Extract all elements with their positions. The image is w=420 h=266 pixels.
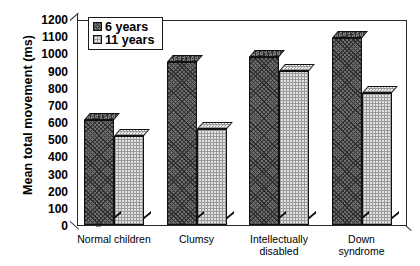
- bar: [167, 62, 197, 225]
- dark-hatched-swatch-icon: [93, 22, 102, 31]
- bar: [84, 120, 114, 225]
- bar-top-face: [114, 129, 150, 136]
- bar-front-face: [84, 120, 114, 225]
- y-axis-tick-label: 800: [48, 82, 68, 96]
- y-axis-tick-label: 300: [48, 168, 68, 182]
- y-axis-tick-label: 400: [48, 150, 68, 164]
- x-axis-category-label: Intellectually disabled: [250, 234, 308, 257]
- y-axis-tick-label: 500: [48, 133, 68, 147]
- bar-top-face: [197, 122, 233, 129]
- bar-front-face: [197, 129, 227, 225]
- bar-top-face: [362, 86, 398, 93]
- bar: [332, 38, 362, 225]
- bar-side-face: [227, 211, 234, 219]
- bar-top-face: [167, 55, 203, 62]
- x-axis-category-label: Normal children: [77, 234, 151, 246]
- x-axis-category-label: Clumsy: [179, 234, 214, 246]
- y-axis-tick-label: 1000: [41, 47, 68, 61]
- bar: [197, 129, 227, 225]
- bar-side-face: [144, 211, 151, 219]
- legend: 6 years 11 years: [88, 17, 163, 50]
- bar: [249, 57, 279, 225]
- plot-area: [77, 20, 407, 226]
- bar-front-face: [332, 38, 362, 225]
- bar-side-face: [309, 211, 316, 219]
- bar-front-face: [249, 57, 279, 225]
- bar-top-face: [332, 31, 368, 38]
- bar: [279, 71, 309, 226]
- legend-item-6-years: 6 years: [93, 20, 154, 33]
- x-axis-category-label: Down syndrome: [334, 234, 390, 257]
- bar-group-container: [78, 21, 406, 225]
- bar-top-face: [279, 64, 315, 71]
- y-axis-tick-label: 700: [48, 99, 68, 113]
- legend-item-11-years: 11 years: [93, 33, 154, 46]
- y-axis-tick-label: 200: [48, 185, 68, 199]
- y-axis-tick-label: 900: [48, 65, 68, 79]
- bar-top-face: [249, 50, 285, 57]
- bar-front-face: [362, 93, 392, 225]
- bar-top-face: [84, 113, 120, 120]
- y-axis-tick-label: 100: [48, 202, 68, 216]
- bar: [362, 93, 392, 225]
- y-axis-tick-label: 1200: [41, 13, 68, 27]
- y-axis-tick-label: 0: [61, 219, 68, 233]
- bar-chart: Mean total movement (ms) 010020030040050…: [0, 0, 420, 266]
- bar-front-face: [167, 62, 197, 225]
- y-axis-tick-label: 600: [48, 116, 68, 130]
- legend-label: 6 years: [105, 20, 148, 34]
- y-axis-tick-labels: 0100200300400500600700800900100011001200: [24, 14, 72, 232]
- light-dotted-swatch-icon: [93, 35, 102, 44]
- y-axis-tick-label: 1100: [42, 30, 68, 44]
- bar-front-face: [279, 71, 309, 226]
- bar-side-face: [392, 211, 399, 219]
- x-axis-category-labels: Normal childrenClumsyIntellectually disa…: [77, 234, 417, 264]
- legend-label: 11 years: [105, 33, 154, 47]
